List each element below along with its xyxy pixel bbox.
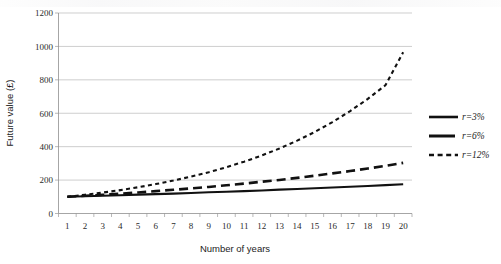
- gridlines-group: [55, 13, 412, 214]
- legend-label: r=12%: [462, 150, 490, 160]
- y-tick-label: 1000: [35, 42, 54, 52]
- x-tick-label: 11: [240, 221, 249, 231]
- x-tick-label: 12: [257, 221, 266, 231]
- x-tick-label: 1: [65, 221, 70, 231]
- x-tick-label: 19: [381, 221, 391, 231]
- y-axis-title: Future value (£): [4, 79, 15, 146]
- x-axis-tick-marks: [59, 214, 413, 218]
- chart-legend: r=3%r=6%r=12%: [429, 112, 490, 160]
- y-tick-label: 800: [40, 75, 54, 85]
- x-tick-label: 14: [293, 221, 303, 231]
- x-tick-label: 9: [206, 221, 211, 231]
- x-tick-label: 10: [222, 221, 232, 231]
- x-tick-label: 4: [118, 221, 123, 231]
- x-axis-title: Number of years: [200, 243, 270, 254]
- future-value-chart: 020040060080010001200 123456789101112131…: [0, 0, 501, 264]
- y-axis-tick-labels: 020040060080010001200: [35, 8, 54, 219]
- x-tick-label: 13: [275, 221, 285, 231]
- x-tick-label: 17: [346, 221, 356, 231]
- x-tick-label: 20: [399, 221, 409, 231]
- y-tick-label: 1200: [35, 8, 54, 18]
- x-tick-label: 2: [83, 221, 88, 231]
- legend-label: r=3%: [462, 112, 485, 122]
- series-layer: [67, 52, 403, 197]
- legend-label: r=6%: [462, 131, 485, 141]
- x-tick-label: 3: [100, 221, 105, 231]
- chart-canvas: 020040060080010001200 123456789101112131…: [0, 0, 501, 264]
- x-tick-label: 15: [310, 221, 320, 231]
- x-axis-tick-labels: 1234567891011121314151617181920: [65, 221, 408, 231]
- x-tick-label: 16: [328, 221, 338, 231]
- x-tick-label: 5: [136, 221, 141, 231]
- y-tick-label: 200: [40, 175, 54, 185]
- y-tick-label: 400: [40, 142, 54, 152]
- series-line-r12: [67, 52, 403, 197]
- x-tick-label: 6: [153, 221, 158, 231]
- x-tick-label: 8: [189, 221, 194, 231]
- x-tick-label: 18: [363, 221, 373, 231]
- y-tick-label: 0: [49, 209, 54, 219]
- y-tick-label: 600: [40, 109, 54, 119]
- x-tick-label: 7: [171, 221, 176, 231]
